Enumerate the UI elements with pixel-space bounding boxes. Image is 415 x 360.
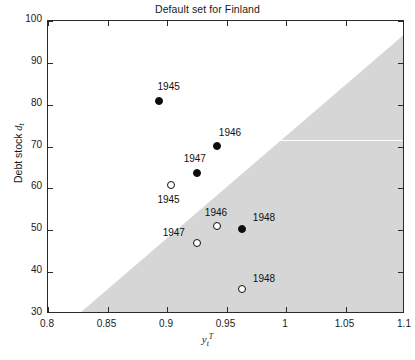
y-tick xyxy=(48,105,53,106)
plot-clip: 19451946194719481945194619471948 xyxy=(48,21,403,312)
data-point-filled-1945 xyxy=(155,97,163,105)
y-tick xyxy=(48,147,53,148)
plot-area: 19451946194719481945194619471948 xyxy=(47,20,404,313)
data-point-filled-1948 xyxy=(238,225,246,233)
chart-title: Default set for Finland xyxy=(0,3,415,15)
x-tick xyxy=(227,307,228,312)
data-point-label: 1945 xyxy=(157,194,179,205)
x-tick-label: 1 xyxy=(263,318,307,329)
y-tick-label: 40 xyxy=(8,264,42,275)
x-tick-label: 0.95 xyxy=(204,318,248,329)
y-tick-label: 30 xyxy=(8,306,42,317)
y-tick-label: 100 xyxy=(8,13,42,24)
y-axis-label: Debt stock dt xyxy=(12,78,26,228)
data-point-label: 1947 xyxy=(184,152,206,163)
chart-figure: Default set for Finland 1945194619471948… xyxy=(0,0,415,360)
x-tick xyxy=(108,307,109,312)
y-tick xyxy=(398,63,403,64)
y-tick xyxy=(398,147,403,148)
data-point-label: 1946 xyxy=(205,207,227,218)
x-tick xyxy=(286,21,287,26)
y-tick xyxy=(48,21,53,22)
x-tick xyxy=(346,307,347,312)
data-point-label: 1945 xyxy=(158,80,180,91)
data-point-label: 1947 xyxy=(163,226,185,237)
x-tick-label: 0.85 xyxy=(85,318,129,329)
data-point-open-1948 xyxy=(238,285,246,293)
x-tick xyxy=(48,307,49,312)
x-tick-label: 0.8 xyxy=(25,318,69,329)
white-separator-rule xyxy=(211,140,403,141)
default-set-shaded-region xyxy=(48,21,403,312)
y-tick-label: 90 xyxy=(8,55,42,66)
data-point-filled-1946 xyxy=(213,142,221,150)
x-tick-label: 0.9 xyxy=(144,318,188,329)
x-tick xyxy=(167,307,168,312)
x-tick xyxy=(346,21,347,26)
data-point-open-1946 xyxy=(213,222,221,230)
data-point-label: 1946 xyxy=(219,126,241,137)
y-tick xyxy=(48,63,53,64)
data-point-open-1945 xyxy=(167,181,175,189)
y-tick xyxy=(48,272,53,273)
y-tick xyxy=(48,230,53,231)
x-tick xyxy=(167,21,168,26)
y-tick xyxy=(398,21,403,22)
data-point-filled-1947 xyxy=(193,169,201,177)
x-tick xyxy=(227,21,228,26)
y-tick xyxy=(398,188,403,189)
x-tick xyxy=(286,307,287,312)
x-axis-label: ytT xyxy=(0,332,415,348)
x-tick-label: 1.05 xyxy=(323,318,367,329)
y-tick xyxy=(398,230,403,231)
y-tick xyxy=(398,105,403,106)
y-tick xyxy=(398,272,403,273)
data-point-open-1947 xyxy=(193,239,201,247)
x-tick-label: 1.1 xyxy=(382,318,415,329)
y-axis-label-text: Debt stock xyxy=(12,133,24,183)
data-point-label: 1948 xyxy=(253,272,275,283)
y-tick xyxy=(48,188,53,189)
data-point-label: 1948 xyxy=(253,211,275,222)
x-tick xyxy=(108,21,109,26)
